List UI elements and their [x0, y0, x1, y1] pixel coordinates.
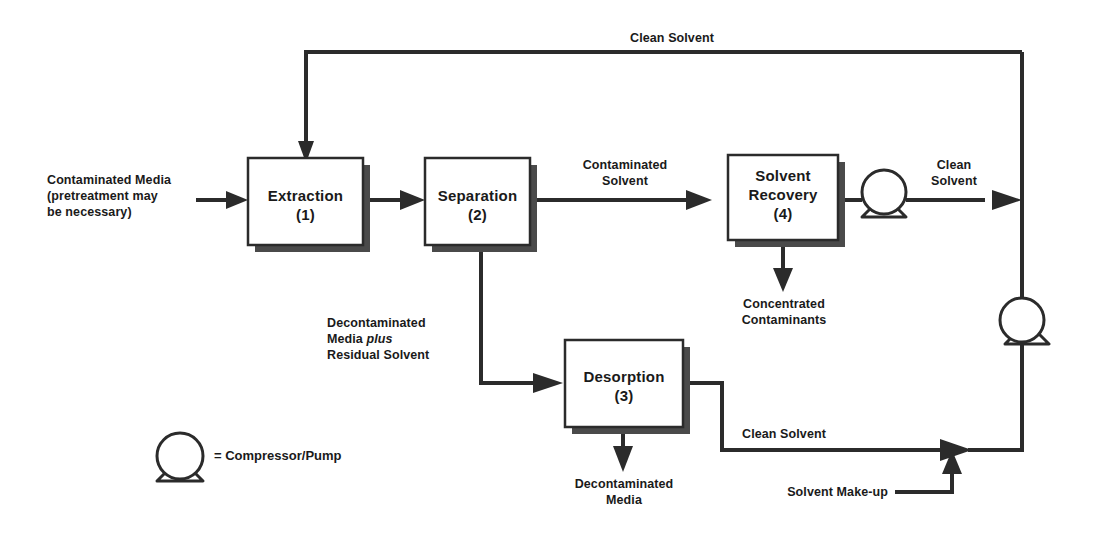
stream-label-clean-solvent-out: Clean Solvent — [915, 157, 993, 189]
arrowhead-extraction-to-separation — [400, 190, 425, 210]
pump-icon-right-riser[interactable] — [1000, 298, 1049, 344]
contaminated-solvent-line-1: Contaminated — [565, 157, 685, 173]
clean-solvent-out-line-2: Solvent — [915, 173, 993, 189]
arrowhead-concentrated-contaminants — [773, 268, 793, 292]
process-flow-diagram: Extraction (1) Separation (2) Solvent Re… — [0, 0, 1099, 540]
flow-diagram-canvas — [0, 0, 1099, 540]
solvent-recovery-box[interactable] — [728, 155, 838, 240]
stream-label-concentrated-contaminants: Concentrated Contaminants — [710, 296, 858, 328]
stream-label-solvent-makeup: Solvent Make-up — [760, 484, 888, 500]
decon-media-solvent-line-3: Residual Solvent — [327, 347, 487, 363]
arrowhead-decontaminated-media — [613, 446, 633, 472]
arrowhead-clean-solvent-bottom — [940, 439, 972, 461]
arrowhead-separation-to-desorption — [533, 373, 563, 393]
connector-clean-solvent-recycle — [306, 52, 1022, 150]
desorption-box[interactable] — [565, 340, 683, 427]
stream-label-clean-solvent-top: Clean Solvent — [592, 30, 752, 46]
solvent-makeup-text: Solvent Make-up — [760, 484, 888, 500]
feed-line-1: Contaminated Media — [47, 172, 207, 188]
arrowhead-separation-to-solvent-recovery — [686, 190, 712, 210]
arrowhead-clean-solvent-out — [992, 190, 1022, 210]
decon-media-solvent-line-2-b: plus — [367, 332, 393, 346]
clean-solvent-out-line-1: Clean — [915, 157, 993, 173]
stream-label-contaminated-solvent: Contaminated Solvent — [565, 157, 685, 189]
decon-media-solvent-line-1: Decontaminated — [327, 315, 487, 331]
arrowhead-feed-to-extraction — [226, 191, 248, 209]
feed-line-3: be necessary) — [47, 204, 207, 220]
pump-icon-legend — [157, 433, 203, 481]
separation-box[interactable] — [425, 158, 530, 245]
decontaminated-media-line-2: Media — [550, 492, 698, 508]
clean-solvent-bottom-text: Clean Solvent — [742, 426, 892, 442]
concentrated-line-1: Concentrated — [710, 296, 858, 312]
decon-media-solvent-line-2: Media plus — [327, 331, 487, 347]
decon-media-solvent-line-2-a: Media — [327, 332, 367, 346]
decontaminated-media-line-1: Decontaminated — [550, 476, 698, 492]
stream-label-clean-solvent-bottom: Clean Solvent — [742, 426, 892, 442]
clean-solvent-top-text: Clean Solvent — [592, 30, 752, 46]
pump-icon-solvent-recovery-outlet[interactable] — [862, 170, 906, 217]
connector-separation-to-desorption — [481, 248, 536, 383]
stream-label-contaminated-media: Contaminated Media (pretreatment may be … — [47, 172, 207, 220]
feed-line-2: (pretreatment may — [47, 188, 207, 204]
extraction-box[interactable] — [248, 158, 363, 245]
stream-label-decontaminated-media: Decontaminated Media — [550, 476, 698, 508]
legend-compressor-pump-text: = Compressor/Pump — [214, 448, 342, 463]
concentrated-line-2: Contaminants — [710, 312, 858, 328]
connector-solvent-makeup — [895, 472, 952, 492]
contaminated-solvent-line-2: Solvent — [565, 173, 685, 189]
stream-label-decon-media-plus-residual: Decontaminated Media plus Residual Solve… — [327, 315, 487, 363]
